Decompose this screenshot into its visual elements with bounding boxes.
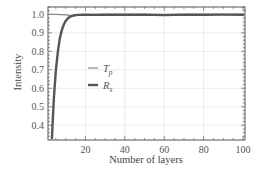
grid-lines (48, 7, 245, 140)
y-axis-ticks: 0.40.50.60.70.80.91.0 (32, 9, 45, 131)
y-tick-label: 0.8 (32, 46, 45, 57)
y-tick-label: 1.0 (32, 9, 45, 20)
x-axis-title: Number of layers (109, 154, 182, 165)
y-tick-label: 0.9 (32, 27, 45, 38)
y-tick-label: 0.6 (32, 83, 45, 94)
y-tick-label: 0.5 (32, 101, 45, 112)
plot-frame (48, 7, 245, 140)
intensity-chart: 20406080100 0.40.50.60.70.80.91.0 Tp Rs … (0, 0, 261, 177)
y-tick-label: 0.4 (32, 120, 45, 131)
x-tick-label: 20 (80, 144, 90, 155)
y-axis-title: Intensity (12, 53, 23, 90)
x-tick-label: 80 (199, 144, 209, 155)
minor-ticks (48, 7, 245, 140)
legend-label-rs: Rs (102, 80, 112, 94)
legend: Tp Rs (88, 63, 113, 94)
x-tick-label: 100 (236, 144, 251, 155)
y-tick-label: 0.7 (32, 64, 45, 75)
legend-label-tp: Tp (103, 63, 113, 77)
